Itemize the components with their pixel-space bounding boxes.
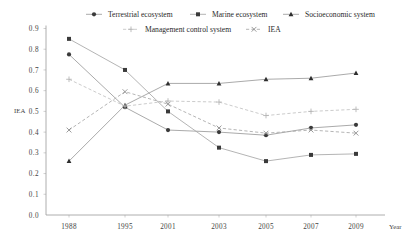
x-axis-title: Year [389, 223, 402, 230]
data-point-marker [353, 107, 359, 113]
data-point-marker [216, 99, 222, 105]
data-point-marker [309, 153, 313, 157]
series-line [69, 79, 356, 115]
data-point-marker [354, 152, 358, 156]
data-point-marker [308, 109, 314, 115]
y-axis-title: IEA [14, 107, 25, 114]
y-tick-label: 0.1 [29, 191, 39, 199]
data-point-marker [165, 98, 171, 104]
series-iea [67, 89, 359, 135]
series-marine-ecosystem [67, 37, 358, 163]
x-tick-label: 2001 [160, 223, 176, 231]
x-tick-label: 2009 [348, 223, 364, 231]
y-tick-label: 0.9 [29, 25, 39, 33]
legend-item-management-control-system[interactable]: Management control system [123, 25, 231, 34]
series-line [69, 73, 356, 161]
legend-label: Terrestrial ecosystem [108, 10, 173, 19]
y-tick-labels-group: 0.00.10.20.30.40.50.60.70.80.9 [29, 25, 39, 220]
legend-item-marine-ecosystem[interactable]: Marine ecosystem [190, 10, 268, 19]
data-point-marker [217, 130, 221, 134]
data-point-marker [67, 128, 72, 133]
legend-group: Terrestrial ecosystemMarine ecosystemSoc… [86, 10, 375, 34]
x-tick-labels-group: 1988199520012003200520072009 [61, 223, 364, 231]
legend-marker-icon [128, 27, 134, 33]
data-point-marker [67, 52, 71, 56]
x-tick-label: 2007 [303, 223, 319, 231]
data-point-marker [66, 76, 72, 82]
gridlines-group [44, 29, 357, 218]
data-point-marker [263, 113, 269, 119]
legend-marker-icon [92, 12, 96, 16]
y-tick-label: 0.7 [29, 67, 39, 75]
data-point-marker [354, 71, 359, 76]
series-line [69, 39, 356, 161]
data-point-marker [123, 89, 128, 94]
data-point-marker [166, 128, 170, 132]
legend-item-iea[interactable]: IEA [246, 25, 281, 34]
chart-container: 0.00.10.20.30.40.50.60.70.80.9 198819952… [0, 0, 406, 243]
legend-label: IEA [268, 25, 281, 34]
y-tick-label: 0.2 [29, 170, 39, 178]
y-tick-label: 0.8 [29, 46, 39, 54]
legend-label: Management control system [145, 25, 231, 34]
series-socioeconomic-system [67, 71, 359, 164]
legend-label: Marine ecosystem [212, 10, 268, 19]
y-tick-label: 0.0 [29, 212, 39, 220]
series-line [69, 92, 356, 133]
y-tick-label: 0.5 [29, 108, 39, 116]
legend-label: Socioeconomic system [305, 10, 375, 19]
data-point-marker [354, 123, 358, 127]
x-tick-label: 2003 [211, 223, 227, 231]
line-chart-plot: 0.00.10.20.30.40.50.60.70.80.9 198819952… [0, 0, 406, 243]
data-series-group [66, 37, 359, 163]
legend-item-terrestrial-ecosystem[interactable]: Terrestrial ecosystem [86, 10, 173, 19]
series-management-control-system [66, 76, 359, 118]
data-point-marker [67, 37, 71, 41]
series-line [69, 54, 356, 135]
x-tick-label: 1995 [117, 223, 133, 231]
y-tick-label: 0.3 [29, 149, 39, 157]
legend-marker-icon [196, 12, 200, 16]
data-point-marker [264, 159, 268, 163]
data-point-marker [166, 109, 170, 113]
x-tick-label: 2005 [258, 223, 274, 231]
legend-item-socioeconomic-system[interactable]: Socioeconomic system [283, 10, 375, 19]
data-point-marker [123, 68, 127, 72]
x-tick-label: 1988 [61, 223, 77, 231]
data-point-marker [217, 146, 221, 150]
y-tick-label: 0.6 [29, 87, 39, 95]
series-terrestrial-ecosystem [67, 52, 358, 137]
y-tick-label: 0.4 [29, 129, 39, 137]
